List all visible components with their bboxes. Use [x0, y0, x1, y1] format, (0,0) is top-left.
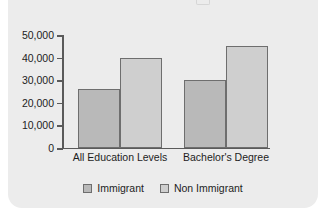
y-tick-20000 — [57, 103, 63, 105]
legend-swatch-non-immigrant — [160, 184, 169, 193]
bar-immigrant-all-education-levels — [78, 89, 120, 148]
y-axis-label-40000: 40,000 — [0, 52, 54, 63]
x-axis-label-all-education-levels: All Education Levels — [60, 152, 180, 163]
y-axis-label-0: 0 — [0, 143, 54, 154]
legend-item-non-immigrant: Non Immigrant — [160, 183, 243, 194]
chart-legend: Immigrant Non Immigrant — [0, 183, 326, 194]
legend-swatch-immigrant — [83, 184, 92, 193]
y-axis-label-30000: 30,000 — [0, 75, 54, 86]
bar-immigrant-bachelors-degree — [184, 80, 226, 148]
legend-item-immigrant: Immigrant — [83, 183, 144, 194]
y-tick-40000 — [57, 58, 63, 60]
y-axis-label-50000: 50,000 — [0, 30, 54, 41]
y-axis-label-10000: 10,000 — [0, 120, 54, 131]
bar-chart-figure: 50,000 40,000 30,000 20,000 10,000 0 All… — [0, 0, 326, 220]
y-tick-10000 — [57, 125, 63, 127]
legend-label-immigrant: Immigrant — [97, 183, 144, 194]
bar-non-immigrant-bachelors-degree — [226, 46, 268, 148]
y-tick-50000 — [57, 35, 63, 37]
y-tick-0 — [57, 148, 63, 150]
y-axis-line — [62, 35, 64, 149]
legend-label-non-immigrant: Non Immigrant — [174, 183, 243, 194]
y-axis-label-20000: 20,000 — [0, 98, 54, 109]
x-axis-label-bachelors-degree: Bachelor's Degree — [166, 152, 286, 163]
y-tick-30000 — [57, 80, 63, 82]
bar-non-immigrant-all-education-levels — [120, 58, 162, 148]
